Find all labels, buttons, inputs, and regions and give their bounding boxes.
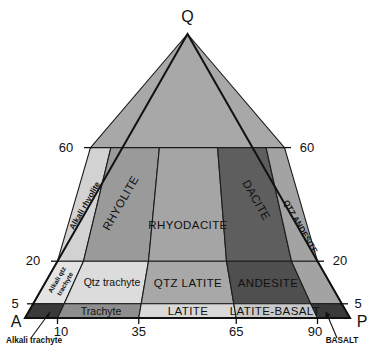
axis-label-base-65: 65 [229, 324, 243, 339]
axis-label-base-35: 35 [132, 324, 146, 339]
vertex-label-p: P [357, 313, 368, 330]
field-label-latite-basalt: LATITE-BASALT [230, 305, 320, 317]
annotation-basalt: BASALT [326, 336, 359, 345]
vertex-label-q: Q [181, 8, 193, 25]
axis-label-base-90: 90 [308, 324, 322, 339]
field-label-rhyodacite: RHYODACITE [148, 219, 227, 231]
field-rhyodacite [149, 148, 227, 262]
field-label-qtz-trachyte: Qtz trachyte [84, 276, 141, 288]
axis-label-left-60: 60 [59, 140, 73, 155]
field-label-trachyte: Trachyte [81, 305, 122, 317]
field-label-andesite: ANDESITE [238, 277, 299, 289]
field-label-latite: LATITE [168, 305, 209, 317]
axis-label-left-20: 20 [26, 253, 40, 268]
annotation-alkali-trachyte: Alkali trachyte [6, 336, 62, 345]
field-top-quartz [91, 34, 285, 148]
qap-diagram-canvas: 60 60 20 20 5 5 10 35 65 90 Q A P Alkali… [0, 0, 373, 345]
axis-label-right-60: 60 [300, 140, 314, 155]
axis-label-right-20: 20 [333, 253, 347, 268]
axis-label-left-5: 5 [11, 296, 18, 311]
axis-label-right-5: 5 [354, 296, 361, 311]
vertex-label-a: A [11, 313, 22, 330]
field-label-qtz-latite: QTZ LATITE [154, 277, 222, 289]
qap-ternary-diagram: 60 60 20 20 5 5 10 35 65 90 Q A P Alkali… [0, 0, 373, 345]
